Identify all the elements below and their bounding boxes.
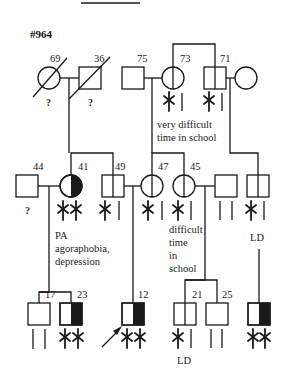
star-marker (143, 201, 153, 220)
star-marker (73, 329, 83, 348)
individual-II-4: 47 (141, 161, 169, 220)
age-label: 71 (220, 53, 231, 64)
pedigree-id: #964 (30, 28, 53, 40)
affected-fill (259, 303, 270, 325)
individual-I-4: 73 (162, 53, 191, 111)
individual-I-5: 71 (204, 53, 231, 111)
individual-III-5: 25 (206, 289, 233, 348)
affected-fill (71, 175, 82, 197)
note-text: agoraphobia, (55, 243, 110, 254)
individual-III-1: 17 (28, 289, 56, 349)
individual-III-2: 23 (60, 289, 88, 348)
individual-II-5: 45 (173, 161, 201, 220)
age-label: 12 (138, 289, 149, 300)
star-marker (173, 201, 183, 220)
individual-II-7 (246, 175, 269, 220)
star-marker (60, 329, 70, 348)
star-marker (164, 92, 174, 111)
individual-I-2: 36 ? (69, 53, 110, 108)
individual-II-1: 44 ? (16, 161, 44, 216)
age-label: 25 (222, 289, 233, 300)
unknown-status: ? (25, 205, 30, 216)
star-marker (135, 329, 145, 348)
descent-line (39, 186, 49, 303)
unknown-status: ? (46, 97, 51, 108)
age-label: 21 (192, 289, 203, 300)
note-text: depression (55, 256, 101, 267)
star-marker (58, 201, 68, 220)
star-marker (173, 329, 183, 348)
affected-fill (133, 303, 144, 325)
note-text: time (169, 237, 188, 248)
star-marker (260, 329, 270, 348)
star-marker (71, 201, 81, 220)
age-label: 73 (180, 53, 191, 64)
age-label: 45 (190, 161, 201, 172)
proband-arrow-icon (102, 326, 122, 347)
note-text: very difficult (157, 119, 212, 130)
age-label: 69 (50, 53, 61, 64)
individual-II-6 (215, 175, 237, 220)
star-marker (246, 201, 256, 220)
individual-II-2: 41 (58, 161, 89, 220)
note-text: LD (250, 232, 264, 243)
individual-I-6 (235, 67, 257, 89)
individual-I-1: 69 ? (33, 53, 67, 108)
age-label: 41 (78, 161, 89, 172)
age-label: 17 (45, 289, 56, 300)
individual-III-4: 21 LD (173, 289, 203, 366)
individual-I-3: 75 (122, 53, 148, 89)
age-label: 44 (33, 161, 44, 172)
note-text: LD (177, 355, 191, 366)
note-text: in (169, 250, 178, 261)
descent-line (185, 186, 205, 303)
star-marker (122, 329, 132, 348)
star-marker (100, 201, 110, 220)
age-label: 47 (158, 161, 169, 172)
age-label: 23 (77, 289, 88, 300)
descent-line (230, 78, 258, 175)
age-label: 49 (115, 161, 126, 172)
note-text: time in school (157, 132, 217, 143)
star-marker (248, 329, 258, 348)
unknown-status: ? (88, 97, 93, 108)
pedigree-chart: #964 69 ? 36 ? 75 73 71 (0, 0, 284, 387)
note-text: school (169, 263, 196, 274)
note-text: PA (55, 230, 68, 241)
individual-III-3: 12 (102, 289, 149, 348)
age-label: 36 (94, 53, 105, 64)
individual-III-6 (248, 303, 270, 348)
affected-fill (71, 303, 82, 325)
age-label: 75 (137, 53, 148, 64)
star-marker (204, 92, 214, 111)
note-text: difficult (169, 224, 203, 235)
